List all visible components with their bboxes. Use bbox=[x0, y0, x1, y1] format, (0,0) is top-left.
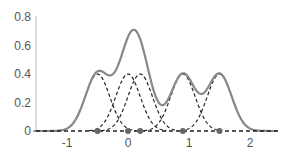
y-tick-label: 0.6 bbox=[14, 39, 31, 53]
y-tick-label: 0.8 bbox=[14, 10, 31, 24]
y-tick-labels: 00.20.40.60.8 bbox=[14, 10, 31, 138]
sample-point-marker bbox=[95, 128, 101, 134]
y-tick-label: 0.4 bbox=[14, 67, 31, 81]
kernel-curve bbox=[89, 74, 166, 131]
sample-point-marker bbox=[125, 128, 131, 134]
x-tick-labels: -1012 bbox=[62, 136, 254, 150]
x-tick-label: 1 bbox=[186, 136, 193, 150]
x-tick-label: 2 bbox=[247, 136, 254, 150]
y-tick-label: 0 bbox=[24, 124, 31, 138]
sample-point-marker bbox=[180, 128, 186, 134]
kde-chart: 00.20.40.60.8 -1012 bbox=[0, 0, 298, 153]
kernel-curve bbox=[58, 74, 135, 131]
x-tick-label: 0 bbox=[125, 136, 132, 150]
y-tick-label: 0.2 bbox=[14, 96, 31, 110]
sample-point-marker bbox=[217, 128, 223, 134]
sample-point-marker bbox=[137, 128, 143, 134]
x-tick-label: -1 bbox=[62, 136, 73, 150]
kde-curve bbox=[33, 30, 277, 131]
